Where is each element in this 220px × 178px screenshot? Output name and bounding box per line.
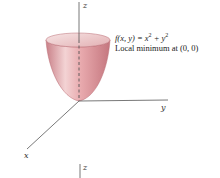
x-axis-label: x [24, 151, 29, 160]
formula-part-2: + y [152, 33, 166, 43]
next-figure-z-label: z [82, 163, 88, 172]
paraboloid-surface [46, 40, 110, 101]
z-axis-label: z [82, 1, 88, 10]
paraboloid-rim [46, 33, 110, 47]
formula-part-1: f(x, y) = x [115, 33, 149, 43]
paraboloid-diagram: z y x z [0, 0, 220, 178]
minimum-caption: Local minimum at (0, 0) [115, 44, 198, 54]
y-axis [79, 100, 168, 101]
x-axis [27, 101, 79, 149]
formula-exponent-2: 2 [165, 32, 168, 38]
function-label: f(x, y) = x2 + y2 Local minimum at (0, 0… [115, 34, 198, 54]
y-axis-label: y [160, 103, 166, 112]
